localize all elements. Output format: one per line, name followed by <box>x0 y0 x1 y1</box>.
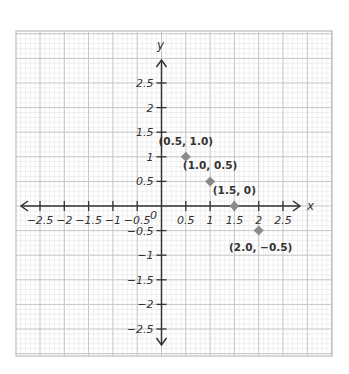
x-tick-label: −1 <box>105 214 121 227</box>
data-points: (0.5, 1.0)(1.0, 0.5)(1.5, 0)(2.0, −0.5) <box>159 135 293 253</box>
data-point-label: (0.5, 1.0) <box>159 135 213 147</box>
x-tick-label: 0.5 <box>177 214 195 227</box>
y-tick-label: 1.5 <box>136 126 154 139</box>
x-tick-label: 1.5 <box>226 214 244 227</box>
data-point-marker <box>254 226 264 236</box>
x-tick-label: 1 <box>207 214 214 227</box>
y-tick-label: 2.5 <box>136 77 154 90</box>
graph-frame <box>16 31 332 356</box>
data-point-marker <box>229 201 239 211</box>
data-point-label: (1.0, 0.5) <box>183 159 237 171</box>
data-point-label: (1.5, 0) <box>213 184 256 196</box>
y-tick-label: −1 <box>137 249 153 262</box>
y-axis-label: y <box>156 38 165 52</box>
x-tick-label: −1.5 <box>75 214 102 227</box>
coordinate-plane: −2.5−2−1.5−1−0.50.511.522.5 2.521.510.5−… <box>0 0 349 374</box>
x-axis-ticks: −2.5−2−1.5−1−0.50.511.522.5 <box>27 201 292 227</box>
y-tick-label: 2 <box>147 102 154 115</box>
y-tick-label: 1 <box>147 151 154 164</box>
y-tick-label: −0.5 <box>127 225 154 238</box>
x-tick-label: −2.5 <box>27 214 54 227</box>
x-axis-label: x <box>306 199 315 213</box>
y-tick-label: −2.5 <box>127 323 154 336</box>
x-tick-label: −2 <box>56 214 72 227</box>
x-tick-label: 2.5 <box>274 214 292 227</box>
minor-grid <box>16 31 332 356</box>
y-tick-label: 0.5 <box>136 175 154 188</box>
data-point-label: (2.0, −0.5) <box>229 241 292 253</box>
y-tick-label: −1.5 <box>127 274 154 287</box>
y-tick-label: −2 <box>137 298 153 311</box>
x-tick-label: 2 <box>255 214 262 227</box>
origin-label: 0 <box>150 209 157 222</box>
major-grid <box>16 31 332 356</box>
